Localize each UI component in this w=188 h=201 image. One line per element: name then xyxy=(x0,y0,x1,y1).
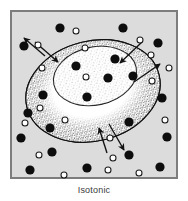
water-molecule xyxy=(137,37,143,43)
water-molecule xyxy=(62,117,68,123)
solute-particle xyxy=(19,41,28,50)
water-molecule xyxy=(61,172,67,178)
solute-particle xyxy=(47,147,56,156)
figure-caption: Isotonic xyxy=(0,185,188,196)
solute-particle xyxy=(45,123,54,132)
diagram-canvas xyxy=(10,10,178,179)
solute-particle xyxy=(38,90,47,99)
solute-particle xyxy=(157,93,166,102)
water-molecule xyxy=(39,65,45,71)
solute-particle xyxy=(118,23,127,32)
solute-particle xyxy=(110,54,119,63)
water-molecule xyxy=(83,74,89,80)
water-molecule xyxy=(82,45,88,51)
diagram-panel xyxy=(10,10,178,179)
solute-particle xyxy=(124,150,133,159)
water-molecule xyxy=(107,135,113,141)
solute-particle xyxy=(82,163,91,172)
solute-particle xyxy=(153,38,162,47)
solute-particle xyxy=(82,92,91,101)
water-molecule xyxy=(162,117,168,123)
solute-particle xyxy=(16,133,25,142)
solute-particle xyxy=(23,108,32,117)
solute-particle xyxy=(124,117,133,126)
solute-particle xyxy=(55,23,64,32)
water-molecule xyxy=(148,52,154,58)
water-molecule xyxy=(136,170,142,176)
isotonic-cell-figure: Isotonic xyxy=(0,0,188,201)
solute-particle xyxy=(103,73,112,82)
water-molecule xyxy=(37,105,43,111)
solute-particle xyxy=(25,165,34,174)
solute-particle xyxy=(162,132,171,141)
water-molecule xyxy=(149,78,155,84)
water-molecule xyxy=(110,155,116,161)
water-molecule xyxy=(105,167,111,173)
water-molecule xyxy=(36,152,42,158)
water-molecule xyxy=(35,42,41,48)
solute-particle xyxy=(128,71,137,80)
solute-particle xyxy=(155,162,164,171)
water-molecule xyxy=(22,120,28,126)
water-molecule xyxy=(166,65,172,71)
water-molecule xyxy=(73,28,79,34)
solute-particle xyxy=(71,61,80,70)
